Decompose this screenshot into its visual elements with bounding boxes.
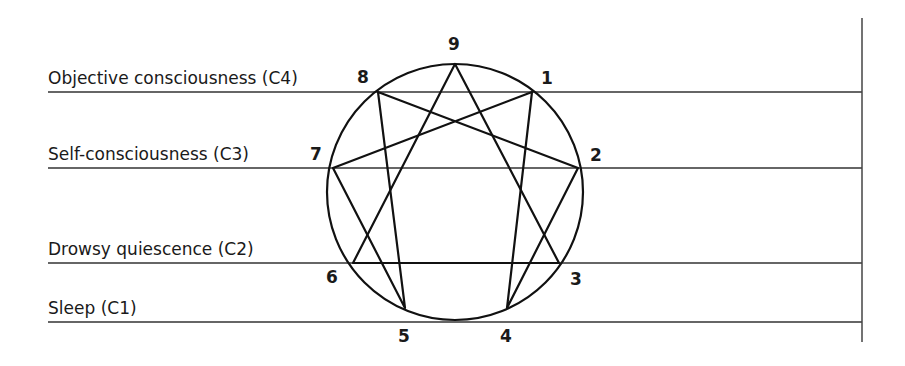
consciousness-levels: Objective consciousness (C4)Self-conscio…: [48, 68, 862, 322]
level-label: Objective consciousness (C4): [48, 68, 298, 88]
point-label-1: 1: [541, 68, 553, 88]
point-label-2: 2: [590, 145, 602, 165]
point-label-3: 3: [570, 269, 582, 289]
level-label: Sleep (C1): [48, 298, 137, 318]
point-label-5: 5: [398, 326, 410, 346]
enneagram-hexad: [333, 92, 578, 308]
point-label-9: 9: [448, 34, 460, 54]
level-label: Drowsy quiescence (C2): [48, 239, 254, 259]
point-label-7: 7: [310, 144, 322, 164]
enneagram-diagram: Objective consciousness (C4)Self-conscio…: [0, 0, 905, 366]
point-label-8: 8: [357, 67, 369, 87]
enneagram-circle: [327, 64, 583, 320]
point-label-6: 6: [326, 267, 338, 287]
enneagram-point-labels: 912345678: [310, 34, 602, 346]
level-label: Self-consciousness (C3): [48, 144, 249, 164]
point-label-4: 4: [500, 326, 512, 346]
